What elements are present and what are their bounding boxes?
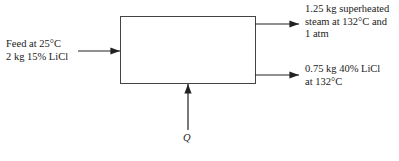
process-box [121, 17, 256, 84]
feed-label: Feed at 25°C 2 kg 15% LiCl [6, 38, 68, 63]
solution-line-2: at 132°C [305, 76, 380, 89]
solution-label: 0.75 kg 40% LiCl at 132°C [305, 63, 380, 88]
steam-line-1: 1.25 kg superheated [305, 3, 389, 16]
feed-line-1: Feed at 25°C [6, 38, 68, 51]
steam-label: 1.25 kg superheated steam at 132°C and 1… [305, 3, 389, 41]
heat-label: Q [183, 132, 191, 145]
feed-line-2: 2 kg 15% LiCl [6, 51, 68, 64]
solution-line-1: 0.75 kg 40% LiCl [305, 63, 380, 76]
steam-line-2: steam at 132°C and [305, 16, 389, 29]
steam-line-3: 1 atm [305, 28, 389, 41]
